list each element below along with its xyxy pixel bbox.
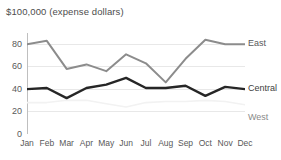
x-axis-tick-label: Sep xyxy=(175,139,197,148)
x-axis-tick-label: Aug xyxy=(155,139,177,148)
x-axis-tick-label: Dec xyxy=(234,139,256,148)
series-line-west xyxy=(27,100,245,107)
series-line-central xyxy=(27,78,245,98)
x-axis-tick-label: Jun xyxy=(115,139,137,148)
x-axis-tick-label: Jan xyxy=(16,139,38,148)
chart-title: $100,000 (expense dollars) xyxy=(6,6,124,17)
x-axis-tick-label: May xyxy=(95,139,117,148)
x-axis-tick-label: Mar xyxy=(56,139,78,148)
y-axis-tick-label: 40 xyxy=(0,85,22,94)
x-axis-tick-label: Nov xyxy=(214,139,236,148)
plot-area xyxy=(27,33,245,134)
series-lines xyxy=(27,40,245,107)
y-axis-tick-label: 0 xyxy=(0,130,22,139)
plot-svg xyxy=(27,33,245,134)
x-axis-tick-label: Apr xyxy=(75,139,97,148)
y-axis-tick-label: 80 xyxy=(0,40,22,49)
x-axis-tick-label: Oct xyxy=(194,139,216,148)
expense-line-chart: $100,000 (expense dollars) 806040200 Jan… xyxy=(0,0,281,160)
x-axis-tick-label: Jul xyxy=(135,139,157,148)
series-label-central: Central xyxy=(248,84,277,93)
series-line-east xyxy=(27,40,245,83)
series-label-west: West xyxy=(248,113,268,122)
y-axis-tick-label: 60 xyxy=(0,62,22,71)
x-axis-tick-label: Feb xyxy=(36,139,58,148)
series-label-east: East xyxy=(248,39,266,48)
y-axis-tick-label: 20 xyxy=(0,107,22,116)
